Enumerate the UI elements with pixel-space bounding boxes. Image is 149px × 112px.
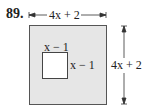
inner-right-label: x − 1 — [70, 59, 95, 71]
outer-width-label: 4x + 2 — [48, 9, 81, 21]
outer-height-label: 4x + 2 — [110, 59, 143, 71]
inner-top-label: x − 1 — [44, 41, 69, 53]
inner-square — [43, 53, 68, 79]
